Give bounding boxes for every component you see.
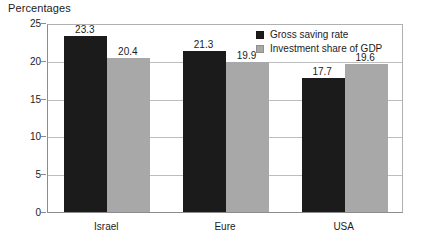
y-axis-tick-mark bbox=[41, 61, 46, 62]
y-axis-tick-mark bbox=[41, 23, 46, 24]
y-axis-tick-mark bbox=[41, 174, 46, 175]
bar-value-label: 21.3 bbox=[182, 39, 225, 50]
bar-value-label: 23.3 bbox=[63, 24, 106, 35]
bar-value-label: 17.7 bbox=[301, 66, 344, 77]
bar-usa-series1 bbox=[302, 78, 345, 212]
y-axis-tick-mark bbox=[41, 99, 46, 100]
y-axis: 0510152025 bbox=[17, 0, 41, 245]
legend-item-gross-saving-rate: Gross saving rate bbox=[256, 28, 382, 41]
legend-swatch-dark-icon bbox=[256, 31, 264, 39]
bar-eure-series2 bbox=[226, 62, 269, 212]
bar-eure-series1 bbox=[183, 51, 226, 212]
x-axis-category-label: Israel bbox=[47, 221, 166, 233]
y-axis-tick-label: 20 bbox=[19, 57, 41, 67]
bar-usa-series2 bbox=[345, 64, 388, 212]
bar-israel-series1 bbox=[64, 36, 107, 212]
legend-label-gross-saving-rate: Gross saving rate bbox=[270, 29, 348, 40]
x-axis-category-label: USA bbox=[284, 221, 403, 233]
y-axis-tick-label: 15 bbox=[19, 95, 41, 105]
y-axis-tick-mark bbox=[41, 136, 46, 137]
y-axis-tick-mark bbox=[41, 212, 46, 213]
bar-value-label: 19.6 bbox=[344, 52, 387, 63]
y-axis-tick-label: 25 bbox=[19, 19, 41, 29]
bar-value-label: 20.4 bbox=[106, 46, 149, 57]
bar-chart: Percentages 0510152025 Gross saving rate… bbox=[0, 0, 421, 245]
bar-value-label: 19.9 bbox=[225, 50, 268, 61]
y-axis-tick-label: 10 bbox=[19, 132, 41, 142]
x-axis-category-label: Eure bbox=[166, 221, 285, 233]
bar-israel-series2 bbox=[107, 58, 150, 212]
y-axis-tick-label: 5 bbox=[19, 170, 41, 180]
y-axis-tick-label: 0 bbox=[19, 208, 41, 218]
